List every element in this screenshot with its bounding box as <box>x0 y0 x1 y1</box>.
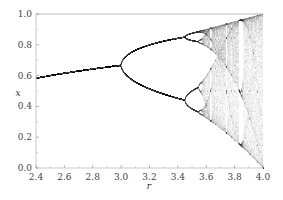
x-ticks: 2.42.62.83.03.23.43.63.84.0 <box>29 165 271 182</box>
y-tick-label: 1.0 <box>18 9 33 19</box>
y-tick-label: 0.6 <box>18 71 33 81</box>
attractor-series <box>36 14 263 168</box>
attractor-points <box>36 14 263 168</box>
x-tick-label: 3.6 <box>199 172 214 182</box>
x-tick-label: 3.0 <box>114 172 129 182</box>
x-tick-label: 2.4 <box>29 172 44 182</box>
bifurcation-chart: 2.42.62.83.03.23.43.63.84.0 0.00.20.40.6… <box>0 0 283 200</box>
y-tick-label: 0.4 <box>18 101 33 111</box>
y-axis-label: x <box>15 88 20 98</box>
x-tick-label: 2.6 <box>57 172 72 182</box>
x-tick-label: 3.4 <box>171 172 186 182</box>
x-tick-label: 3.8 <box>227 172 242 182</box>
x-tick-label: 4.0 <box>256 172 271 182</box>
x-axis-label: r <box>147 181 152 191</box>
y-tick-label: 0.0 <box>18 163 33 173</box>
y-tick-label: 0.8 <box>18 40 33 50</box>
x-tick-label: 2.8 <box>86 172 101 182</box>
y-tick-label: 0.2 <box>18 132 32 142</box>
